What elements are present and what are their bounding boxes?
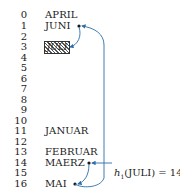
juni-to-juli-arrow (70, 27, 80, 47)
chain-arrows (0, 0, 180, 195)
maerz-to-mai-arrow (78, 164, 89, 184)
